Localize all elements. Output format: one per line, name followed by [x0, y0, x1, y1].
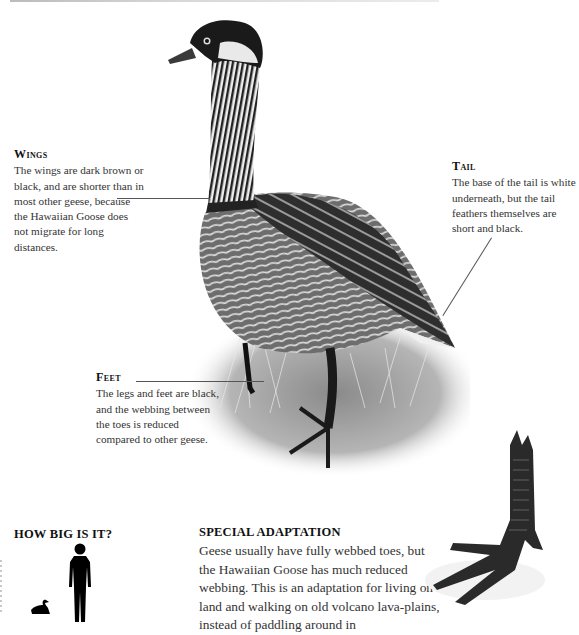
callout-tail-heading: Tail [452, 159, 577, 174]
how-big-section: HOW BIG IS IT? [14, 527, 112, 542]
human-silhouette-icon [66, 542, 94, 622]
special-adaptation-section: SPECIAL ADAPTATION Geese usually have fu… [199, 525, 444, 635]
goose-silhouette-icon [30, 598, 52, 614]
top-rule [10, 0, 439, 2]
special-adaptation-title: SPECIAL ADAPTATION [199, 525, 444, 540]
how-big-title: HOW BIG IS IT? [14, 527, 112, 542]
page-edge-dots [0, 560, 2, 613]
goose-foot-illustration [425, 430, 579, 613]
leader-line-feet [136, 381, 264, 382]
callout-tail: Tail The base of the tail is white under… [452, 159, 577, 236]
callout-tail-text: The base of the tail is white underneath… [452, 175, 577, 236]
callout-wings: Wings The wings are dark brown or black,… [14, 147, 144, 255]
callout-feet-heading: Feet [96, 370, 224, 385]
callout-wings-text: The wings are dark brown or black, and a… [14, 163, 144, 255]
callout-feet-text: The legs and feet are black, and the web… [96, 386, 224, 447]
special-adaptation-text: Geese usually have fully webbed toes, bu… [199, 542, 444, 635]
callout-wings-heading: Wings [14, 147, 144, 162]
leader-line-wings [117, 198, 210, 199]
